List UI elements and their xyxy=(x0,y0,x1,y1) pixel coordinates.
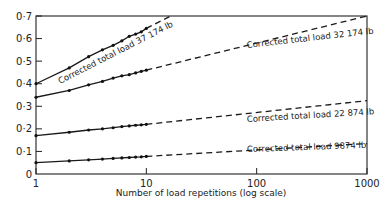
data-point xyxy=(101,127,104,130)
y-tick-label: 0·7 xyxy=(16,11,32,22)
data-point xyxy=(68,89,71,92)
data-point xyxy=(87,55,90,58)
series-line xyxy=(34,16,367,99)
y-tick-label: 0·2 xyxy=(16,123,32,134)
data-point xyxy=(140,70,143,73)
x-tick-label: 1000 xyxy=(354,178,379,189)
series-line xyxy=(34,16,170,85)
data-point xyxy=(140,123,143,126)
data-point xyxy=(128,156,131,159)
data-point xyxy=(34,161,37,164)
data-point xyxy=(134,155,137,158)
data-point xyxy=(68,131,71,134)
x-tick-label: 1 xyxy=(33,178,39,189)
data-point xyxy=(145,69,148,72)
series-label: Corrected total load 32 174 lb xyxy=(246,26,374,50)
data-point xyxy=(101,80,104,83)
data-point xyxy=(145,123,148,126)
chart: 00·10·20·30·40·50·60·71101001000 Correct… xyxy=(0,0,392,209)
y-tick-label: 0·5 xyxy=(16,56,32,67)
y-tick-label: 0·3 xyxy=(16,101,32,112)
data-point xyxy=(87,158,90,161)
data-point xyxy=(128,124,131,127)
data-point xyxy=(112,126,115,129)
data-point xyxy=(101,158,104,161)
series-label: Corrected total load 22 874 lb xyxy=(247,106,375,124)
data-point xyxy=(134,71,137,74)
data-point xyxy=(128,35,131,38)
data-point xyxy=(68,159,71,162)
y-tick-label: 0 xyxy=(26,169,32,180)
data-point xyxy=(101,48,104,51)
data-point xyxy=(34,82,37,85)
y-tick-label: 0·6 xyxy=(16,33,32,44)
data-point xyxy=(140,155,143,158)
x-axis-title: Number of load repetitions (log scale) xyxy=(116,188,287,198)
data-point xyxy=(34,96,37,99)
data-point xyxy=(112,76,115,79)
series-label: Corrected total load 37 174 lb xyxy=(56,19,174,86)
label-layer: Corrected total load 37 174 lbCorrected … xyxy=(56,19,374,154)
data-point xyxy=(112,157,115,160)
data-point xyxy=(145,155,148,158)
data-point xyxy=(134,124,137,127)
data-point xyxy=(120,74,123,77)
series-label: Corrected total load 9874 lb xyxy=(247,140,367,154)
y-tick-label: 0·1 xyxy=(16,146,32,157)
data-point xyxy=(87,83,90,86)
data-point xyxy=(34,134,37,137)
data-point xyxy=(128,73,131,76)
data-point xyxy=(120,125,123,128)
data-point xyxy=(120,156,123,159)
y-tick-label: 0·4 xyxy=(16,78,32,89)
data-point xyxy=(87,128,90,131)
